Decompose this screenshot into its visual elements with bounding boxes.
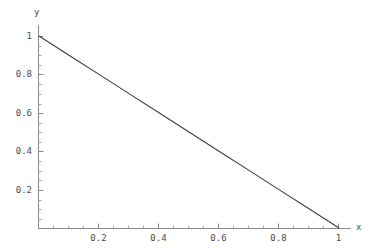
y-tick-label-0-4: 0.4 xyxy=(0,146,32,156)
x-tick-label-1: 1 xyxy=(318,233,359,243)
plot-canvas xyxy=(0,0,373,251)
x-tick-label-0-2: 0.2 xyxy=(78,233,119,243)
y-tick-label-0-8: 0.8 xyxy=(0,69,32,79)
plot-area: y x 1 0.8 0.6 0.4 0.2 0.2 0.4 0.6 0.8 1 xyxy=(0,0,373,251)
y-tick-label-0-2: 0.2 xyxy=(0,185,32,195)
y-tick-label-0-6: 0.6 xyxy=(0,108,32,118)
y-axis-label: y xyxy=(34,7,39,17)
chart-page: y x 1 0.8 0.6 0.4 0.2 0.2 0.4 0.6 0.8 1 xyxy=(0,0,373,251)
x-tick-label-0-4: 0.4 xyxy=(138,233,179,243)
series-line-y-equals-1-minus-x xyxy=(39,36,339,228)
y-tick-label-1: 1 xyxy=(0,31,32,41)
x-axis-major-ticks xyxy=(99,224,339,229)
x-tick-label-0-6: 0.6 xyxy=(198,233,239,243)
y-axis-major-ticks xyxy=(39,37,44,191)
x-tick-label-0-8: 0.8 xyxy=(258,233,299,243)
x-axis-label: x xyxy=(356,222,361,232)
